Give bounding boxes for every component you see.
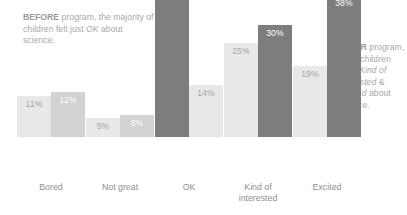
axis-label-line-2: interested — [213, 193, 303, 204]
axis-label-excited: Excited — [282, 182, 372, 193]
bar-value-label: 6% — [120, 118, 154, 128]
bar-kind-of-interested-after: 30% — [258, 25, 292, 138]
bar-value-label: 5% — [86, 121, 120, 131]
bar-excited-after: 38% — [327, 0, 361, 137]
bar-not-great-after: 6% — [120, 115, 154, 138]
bar-group-kind-of-interested: 25% 30% — [224, 0, 292, 137]
bar-value-label: 25% — [224, 46, 258, 56]
bar-value-label: 19% — [293, 69, 327, 79]
bar-not-great-before: 5% — [86, 118, 120, 137]
bar-group-ok: 40% 14% — [155, 0, 223, 137]
bar-value-label: 11% — [17, 99, 51, 109]
bar-ok-before: 40% — [155, 0, 189, 137]
bar-group-not-great: 5% 6% — [86, 0, 154, 137]
bar-kind-of-interested-before: 25% — [224, 43, 258, 137]
bar-bored-before: 11% — [17, 96, 51, 137]
plot-area: 11% 12% 5% 6% 40% 14% — [0, 0, 407, 176]
bar-ok-after: 14% — [189, 85, 223, 138]
bar-group-excited: 19% 38% — [293, 0, 361, 137]
bar-bored-after: 12% — [51, 92, 85, 137]
bar-group-bored: 11% 12% — [17, 0, 85, 137]
bar-excited-before: 19% — [293, 66, 327, 137]
bar-value-label: 14% — [189, 88, 223, 98]
chart-container: BEFORE program, the majority of children… — [0, 0, 407, 215]
bar-value-label: 12% — [51, 95, 85, 105]
bar-value-label: 38% — [327, 0, 361, 8]
bar-value-label: 30% — [258, 28, 292, 38]
